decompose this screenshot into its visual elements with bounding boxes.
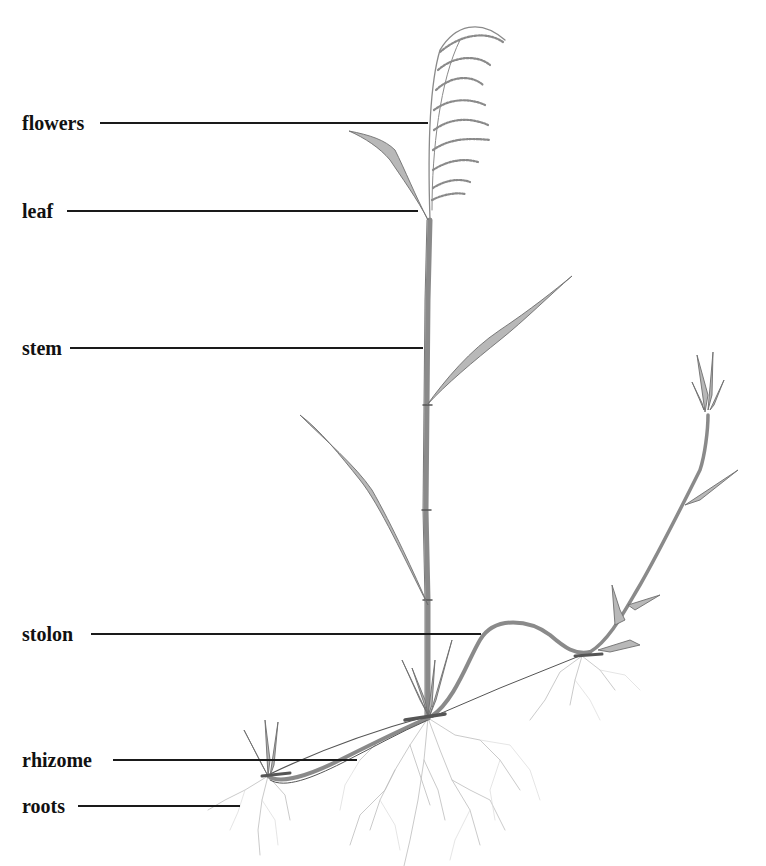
upper-leaf-illustration — [349, 131, 428, 220]
grass-plant-illustration — [0, 0, 766, 866]
flower-panicle-illustration — [429, 27, 505, 220]
label-rhizome: rhizome — [22, 750, 92, 770]
label-flowers: flowers — [22, 113, 84, 133]
lower-leaf-illustration — [300, 415, 428, 605]
leader-lines — [67, 123, 481, 806]
middle-leaf-illustration — [427, 276, 572, 405]
label-stem: stem — [22, 338, 62, 358]
label-roots: roots — [22, 796, 65, 816]
label-stolon: stolon — [22, 624, 73, 644]
stem-illustration — [426, 220, 430, 718]
stolon-illustration — [432, 623, 590, 717]
rhizome-illustration — [268, 718, 428, 779]
label-leaf: leaf — [22, 201, 53, 221]
